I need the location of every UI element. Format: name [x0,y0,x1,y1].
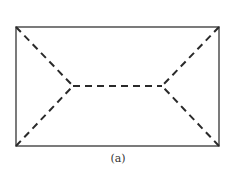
outer-rectangle [16,27,219,146]
figure-caption: (a) [0,152,236,165]
roof-plan-diagram [0,0,236,176]
dashed-line-bottom-right [162,86,219,146]
dashed-line-top-left [16,27,73,86]
dashed-line-top-right [162,27,219,86]
dashed-line-bottom-left [16,86,73,146]
